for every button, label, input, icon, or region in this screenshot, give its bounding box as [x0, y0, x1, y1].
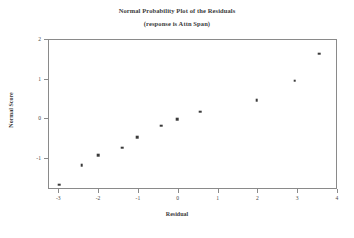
x-axis-tick: [257, 189, 258, 193]
x-axis-tick: [58, 189, 59, 193]
x-axis-tick-label: 3: [296, 195, 299, 201]
x-axis-tick-label: 2: [256, 195, 259, 201]
x-axis-tick-label: -3: [56, 195, 61, 201]
y-axis-tick-label: 0: [38, 115, 41, 121]
x-axis-tick-label: 0: [176, 195, 179, 201]
y-axis-tick: [44, 79, 48, 80]
x-axis-tick: [218, 189, 219, 193]
plot-area-frame: [48, 39, 338, 189]
y-axis-tick: [44, 118, 48, 119]
x-axis-tick: [337, 189, 338, 193]
y-axis-tick-label: 2: [38, 36, 41, 42]
normal-probability-plot-figure: Normal Probability Plot of the Residuals…: [0, 0, 354, 238]
x-axis-tick: [297, 189, 298, 193]
y-axis-tick-label: -1: [36, 155, 41, 161]
y-axis-tick-label: 1: [38, 76, 41, 82]
x-axis-tick: [178, 189, 179, 193]
x-axis-tick: [98, 189, 99, 193]
chart-subtitle: (response is Attn Span): [0, 20, 354, 27]
x-axis-tick: [138, 189, 139, 193]
x-axis-tick-label: 1: [216, 195, 219, 201]
y-axis-label: Normal Score: [8, 80, 14, 140]
x-axis-label: Residual: [0, 211, 354, 217]
y-axis-tick: [44, 39, 48, 40]
x-axis-tick-label: 4: [336, 195, 339, 201]
chart-title: Normal Probability Plot of the Residuals: [0, 7, 354, 14]
x-axis-tick-label: -2: [96, 195, 101, 201]
y-axis-tick: [44, 158, 48, 159]
x-axis-tick-label: -1: [136, 195, 141, 201]
